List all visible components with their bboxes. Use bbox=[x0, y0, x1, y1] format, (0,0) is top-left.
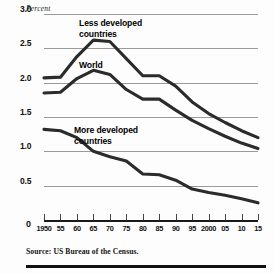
source-caption: Source: US Bureau of the Census. bbox=[26, 247, 139, 256]
x-axis-tickmark bbox=[159, 214, 160, 220]
x-axis-tickmark bbox=[225, 214, 226, 220]
x-axis-tickmark bbox=[143, 214, 144, 220]
x-axis-tickmark bbox=[192, 214, 193, 220]
chart-figure: Percent 0.51.01.52.02.53.0 0 19505560657… bbox=[0, 0, 275, 274]
series-lines-group bbox=[44, 14, 258, 220]
series-line-less-developed-countries bbox=[44, 40, 258, 138]
bottom-rule bbox=[26, 265, 266, 268]
y-axis-tick-label: 0.5 bbox=[20, 176, 42, 186]
x-axis-tick-label: 15 bbox=[245, 224, 271, 233]
annotation-line: countries bbox=[79, 29, 142, 40]
series-annotation-more-developed-countries: More developedcountries bbox=[74, 125, 138, 146]
series-annotation-less-developed-countries: Less developedcountries bbox=[79, 18, 142, 39]
x-axis-tickmark bbox=[209, 214, 210, 220]
annotation-line: countries bbox=[74, 136, 138, 147]
x-axis-tickmark bbox=[77, 214, 78, 220]
x-axis-line bbox=[44, 220, 258, 222]
x-axis-tickmark bbox=[110, 214, 111, 220]
annotation-line: World bbox=[79, 60, 103, 71]
y-axis-tick-label: 2.0 bbox=[20, 73, 42, 83]
y-axis-tick-label: 1.5 bbox=[20, 107, 42, 117]
y-axis-tick-label: 1.0 bbox=[20, 141, 42, 151]
x-axis-tickmark bbox=[44, 214, 45, 220]
plot-area bbox=[44, 14, 258, 220]
x-axis-tickmark bbox=[176, 214, 177, 220]
series-annotation-world: World bbox=[79, 60, 103, 71]
x-axis-tickmark bbox=[60, 214, 61, 220]
y-axis-tick-label: 2.5 bbox=[20, 38, 42, 48]
annotation-line: Less developed bbox=[79, 18, 142, 29]
x-axis-tickmark bbox=[126, 214, 127, 220]
annotation-line: More developed bbox=[74, 125, 138, 136]
y-axis-tick-label: 3.0 bbox=[20, 4, 42, 14]
x-axis-tickmark bbox=[258, 214, 259, 220]
x-axis-tickmark bbox=[242, 214, 243, 220]
x-axis-tickmark bbox=[93, 214, 94, 220]
